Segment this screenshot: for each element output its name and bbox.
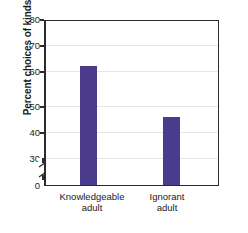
x-label-line-1: Ignorant bbox=[131, 191, 203, 202]
plot-area bbox=[44, 20, 219, 186]
y-tick-label-70: 70 bbox=[12, 41, 40, 51]
gridline-30 bbox=[46, 158, 218, 159]
y-tick-label-60: 60 bbox=[12, 67, 40, 77]
bar-ignorant-adult[interactable] bbox=[163, 117, 180, 185]
y-tick-label-50: 50 bbox=[12, 102, 40, 112]
y-tick-label-30: 30 bbox=[12, 154, 40, 164]
gridline-70 bbox=[46, 45, 218, 46]
gridline-50 bbox=[46, 106, 218, 107]
x-label-knowledgeable-adult: Knowledgeable adult bbox=[42, 191, 142, 213]
x-label-line-1: Knowledgeable bbox=[42, 191, 142, 202]
y-tick-label-80: 80 bbox=[12, 15, 40, 25]
bar-knowledgeable-adult[interactable] bbox=[80, 66, 97, 185]
y-tick-label-40: 40 bbox=[12, 128, 40, 138]
y-tick-label-0: 0 bbox=[12, 181, 40, 191]
x-label-line-2: adult bbox=[42, 202, 142, 213]
gridline-40 bbox=[46, 132, 218, 133]
gridline-60 bbox=[46, 71, 218, 72]
bar-chart-figure: Percent choices of kinds 80 70 60 50 40 … bbox=[0, 0, 248, 233]
x-label-ignorant-adult: Ignorant adult bbox=[131, 191, 203, 213]
x-label-line-2: adult bbox=[131, 202, 203, 213]
